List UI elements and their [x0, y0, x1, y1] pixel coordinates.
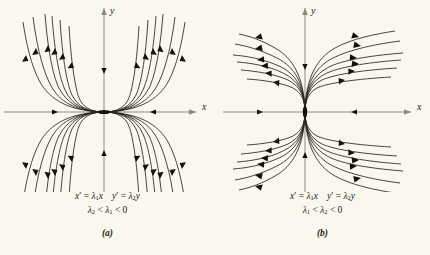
panel-label-b: (b)	[215, 228, 430, 238]
condition-line-a: λ2 < λ1 < 0	[0, 204, 215, 218]
panel-a-plot: x y	[0, 0, 215, 192]
panel-b-plot: x y	[215, 0, 430, 192]
panel-a: x y	[0, 0, 215, 255]
axis-label-x-b: x	[416, 101, 422, 112]
axes-b	[223, 8, 411, 192]
equation-line-b: x′ = λ1xy′ = λ2y	[215, 190, 430, 204]
panel-b: x y	[215, 0, 430, 255]
origin-point-a	[98, 110, 111, 114]
equation-line-a: x′ = λ1xy′ = λ2y	[0, 190, 215, 204]
caption-b: x′ = λ1xy′ = λ2y λ1 < λ2 < 0	[215, 190, 430, 218]
caption-a: x′ = λ1xy′ = λ2y λ2 < λ1 < 0	[0, 190, 215, 218]
axis-label-x-a: x	[201, 101, 207, 112]
axis-label-y-b: y	[310, 5, 316, 16]
origin-point-b	[303, 106, 307, 118]
condition-line-b: λ1 < λ2 < 0	[215, 204, 430, 218]
phase-portrait-figure: x y	[0, 0, 430, 255]
axis-label-y-a: y	[109, 5, 115, 16]
panel-label-a: (a)	[0, 228, 215, 238]
